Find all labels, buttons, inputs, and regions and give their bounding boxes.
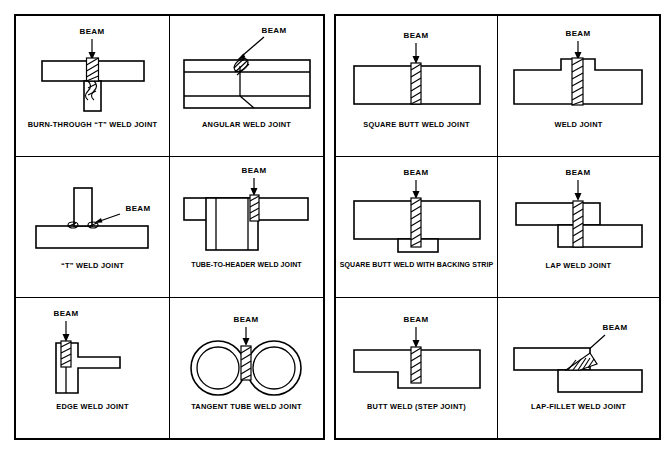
cell-square-butt-weld-joint: BEAM SQUA — [335, 15, 498, 157]
cell-weld-joint: BEAM — [498, 15, 661, 157]
weld-bead — [411, 198, 421, 247]
weld-joint-figure: BEAM — [0, 0, 669, 452]
cell-square-butt-weld-with-backing-strip: BEAM — [335, 157, 498, 298]
beam-label: BEAM — [242, 166, 267, 175]
caption: SQUARE BUTT WELD WITH BACKING STRIP — [336, 261, 497, 270]
weld-bead — [250, 195, 259, 221]
diagram-t-weld-joint: BEAM — [16, 157, 169, 261]
weld-bead — [411, 347, 421, 383]
diagram-square-butt-weld-joint: BEAM — [336, 16, 497, 120]
tube-body — [184, 60, 310, 108]
cell-tube-to-header-weld-joint: BEAM — [170, 157, 325, 298]
diagram-lap-fillet-weld-joint: BEAM — [498, 298, 659, 402]
table-row: BEAM — [15, 15, 324, 157]
diagram-lap-weld-joint: BEAM — [498, 157, 659, 261]
cell-lap-weld-joint: BEAM — [498, 157, 661, 298]
beam-label: BEAM — [566, 168, 591, 177]
diagram-square-butt-weld-with-backing-strip: BEAM — [336, 157, 497, 261]
weld-bead — [61, 341, 71, 367]
beam-label: BEAM — [234, 315, 259, 324]
diagram-edge-weld-joint: BEAM — [16, 298, 169, 402]
lower-lap-plate — [558, 370, 642, 392]
beam-label: BEAM — [404, 31, 429, 40]
beam-label: BEAM — [404, 315, 429, 324]
vertical-web — [74, 188, 92, 226]
caption: “T” WELD JOINT — [16, 261, 169, 270]
upper-lap-plate — [516, 203, 600, 225]
table-row: BEAM EDGE WELD JOINT — [15, 298, 324, 440]
beam-arrowhead — [575, 193, 582, 201]
tube-left-outer — [191, 341, 245, 395]
diagram-butt-weld-step-joint: BEAM — [336, 298, 497, 402]
caption: LAP-FILLET WELD JOINT — [498, 402, 659, 411]
table-row: BEAM BUTT WELD (STEP JOI — [335, 298, 660, 440]
caption: TUBE-TO-HEADER WELD JOINT — [170, 261, 323, 270]
table-row: BEAM “T” WELD JOINT — [15, 157, 324, 298]
beam-arrowhead — [243, 338, 250, 346]
beam-label: BEAM — [80, 27, 105, 36]
weld-bead — [573, 201, 583, 247]
beam-label: BEAM — [603, 323, 628, 332]
beam-label: BEAM — [404, 168, 429, 177]
caption: SQUARE BUTT WELD JOINT — [336, 120, 497, 129]
weld-bead — [241, 346, 251, 380]
weld-bead — [572, 58, 583, 105]
beam-label: BEAM — [262, 26, 287, 35]
cell-lap-fillet-weld-joint: BEAM LAP-FI — [498, 298, 661, 440]
beam-label: BEAM — [566, 29, 591, 38]
diagram-tangent-tube-weld-joint: BEAM — [170, 298, 323, 402]
tube-right-outer — [247, 341, 301, 395]
cell-burn-through-t-weld-joint: BEAM — [15, 15, 170, 157]
right-joint-table: BEAM SQUA — [334, 14, 661, 440]
caption: WELD JOINT — [498, 120, 659, 129]
diagram-weld-joint: BEAM — [498, 16, 659, 120]
beam-label: BEAM — [126, 204, 151, 213]
caption: LAP WELD JOINT — [498, 261, 659, 270]
diagram-burn-through-t-weld-joint: BEAM — [16, 16, 169, 120]
caption: TANGENT TUBE WELD JOINT — [170, 402, 323, 411]
diagram-tube-to-header-weld-joint: BEAM — [170, 157, 323, 261]
cell-t-weld-joint: BEAM “T” WELD JOINT — [15, 157, 170, 298]
weld-bead — [411, 63, 421, 104]
caption: BUTT WELD (STEP JOINT) — [336, 402, 497, 411]
table-row: BEAM SQUA — [335, 15, 660, 157]
cell-butt-weld-step-joint: BEAM BUTT WELD (STEP JOI — [335, 298, 498, 440]
table-row: BEAM — [335, 157, 660, 298]
caption: EDGE WELD JOINT — [16, 402, 169, 411]
caption: ANGULAR WELD JOINT — [170, 120, 323, 129]
cell-angular-weld-joint: BEAM — [170, 15, 325, 157]
beam-label: BEAM — [54, 309, 79, 318]
left-joint-table: BEAM — [14, 14, 325, 440]
cell-tangent-tube-weld-joint: BEAM — [170, 298, 325, 440]
caption: BURN-THROUGH “T” WELD JOINT — [16, 120, 169, 129]
cell-edge-weld-joint: BEAM EDGE WELD JOINT — [15, 298, 170, 440]
diagram-angular-weld-joint: BEAM — [170, 16, 323, 120]
base-plate — [36, 226, 148, 248]
lower-lap-plate — [558, 225, 642, 247]
